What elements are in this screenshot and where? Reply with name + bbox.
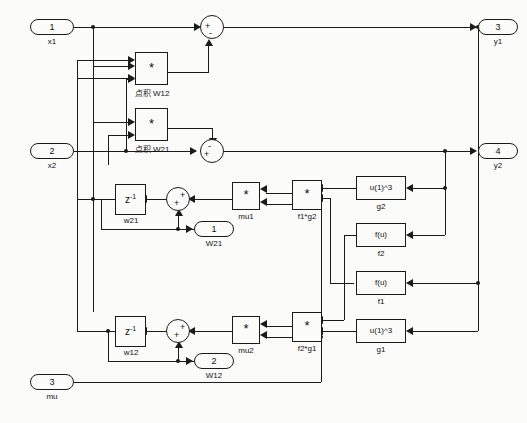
output-port-W12-label: W12 bbox=[194, 371, 234, 380]
function-g1-label: g1 bbox=[356, 345, 406, 354]
wire-sum-y2-out bbox=[224, 151, 470, 152]
arrow-w21-fb-blk bbox=[128, 56, 135, 64]
wire-g2-to-f1g2 bbox=[322, 188, 356, 189]
input-port-x1-label: x1 bbox=[30, 37, 74, 46]
function-g2-label: g2 bbox=[356, 202, 406, 211]
wire-f2-down bbox=[344, 235, 345, 320]
wire-mu2-to-sum12 bbox=[194, 331, 232, 332]
output-port-y2-label: y2 bbox=[478, 161, 518, 170]
input-port-x1-number: 1 bbox=[49, 22, 54, 32]
function-f1-expr: f(u) bbox=[375, 279, 387, 287]
wire-mu-main bbox=[74, 382, 321, 383]
arrow-y2-f2 bbox=[406, 231, 413, 239]
output-port-y2-number: 4 bbox=[495, 146, 500, 156]
dot-product-W12-label: 点积 W12 bbox=[113, 87, 191, 98]
function-f2-label: f2 bbox=[356, 249, 406, 258]
wire-y1-to-f1 bbox=[412, 283, 478, 284]
wire-w21-fb-join bbox=[77, 199, 93, 200]
output-port-W12[interactable]: 2 bbox=[194, 353, 234, 369]
input-port-x2-number: 2 bbox=[49, 146, 54, 156]
wire-y2-to-f2 bbox=[412, 235, 445, 236]
function-block-g2[interactable]: u(1)^3 bbox=[356, 176, 406, 200]
output-port-y2[interactable]: 4 bbox=[478, 143, 518, 159]
input-port-x2-label: x2 bbox=[30, 161, 74, 170]
arrow-f1g2-mu1 bbox=[260, 185, 267, 193]
wire-w12-fb-left bbox=[77, 78, 78, 331]
wire-sum21-to-delay bbox=[146, 199, 168, 200]
function-f1-label: f1 bbox=[356, 297, 406, 306]
sum-y1-sign-minus: - bbox=[209, 29, 212, 38]
arrow-mu-mu1 bbox=[260, 198, 267, 206]
wire-w21blk-out bbox=[168, 128, 213, 129]
arrow-y1-f1 bbox=[406, 279, 413, 287]
output-port-W21-label: W21 bbox=[194, 239, 234, 248]
product-block-mu2[interactable]: * bbox=[232, 316, 260, 344]
sum-block-y1[interactable] bbox=[200, 15, 224, 39]
wire-w21-fb-to-blk bbox=[77, 60, 131, 61]
wire-mu1-to-sum21 bbox=[194, 199, 232, 200]
wire-f2-out bbox=[344, 235, 356, 236]
arrow-w12-sum-y1 bbox=[205, 39, 213, 46]
wire-y2-to-g2 bbox=[412, 188, 445, 189]
wire-w21-fb-up bbox=[178, 216, 179, 229]
dot-product-W21-label: 点积 W21 bbox=[113, 143, 191, 154]
wire-w21-to-port bbox=[101, 229, 194, 230]
wire-mu-bus-up bbox=[321, 204, 322, 382]
wire-f1-into-f1g2 bbox=[322, 198, 330, 199]
wire-delay21-out bbox=[93, 199, 115, 200]
output-port-W12-number: 2 bbox=[211, 356, 216, 366]
output-port-y1-number: 3 bbox=[495, 22, 500, 32]
function-block-f1[interactable]: f(u) bbox=[356, 271, 406, 295]
arrow-w12-port bbox=[186, 357, 193, 365]
unit-delay-block-w12[interactable]: z-1 bbox=[115, 316, 146, 347]
wire-x1-down bbox=[93, 27, 94, 312]
wire-x1-to-w12a bbox=[93, 66, 131, 67]
sum-w12-sign-plus-bottom: + bbox=[174, 331, 179, 340]
sum-w21-sign-plus-bottom: + bbox=[174, 199, 179, 208]
unit-delay-block-w21[interactable]: z-1 bbox=[115, 184, 146, 215]
product-f1g2-label: f1*g2 bbox=[284, 212, 330, 221]
wire-w12-fb-to-blk bbox=[77, 78, 131, 79]
wire-f2-into-f2g1 bbox=[322, 320, 344, 321]
arrow-w21-port bbox=[186, 225, 193, 233]
output-port-y1[interactable]: 3 bbox=[478, 19, 518, 35]
block-diagram-canvas: 1 x1 2 x2 3 mu 3 y1 4 y2 1 W21 2 W12 * 点… bbox=[0, 0, 527, 423]
output-port-W21[interactable]: 1 bbox=[194, 221, 234, 237]
arrow-w12-fb-blk bbox=[128, 74, 135, 82]
product-block-f1g2[interactable]: * bbox=[292, 180, 322, 210]
sum-w21-sign-plus-right: + bbox=[180, 191, 185, 200]
junction-y1-f1 bbox=[476, 281, 480, 285]
arrow-x2-sum bbox=[190, 147, 197, 155]
function-block-g1[interactable]: u(1)^3 bbox=[356, 319, 406, 343]
unit-delay-w21-label: w21 bbox=[110, 216, 152, 225]
sum-y2-sign-plus: + bbox=[204, 150, 209, 159]
junction-y2-g2 bbox=[443, 186, 447, 190]
sum-w12-sign-plus-right: + bbox=[180, 323, 185, 332]
wire-f1-up bbox=[330, 198, 331, 283]
product-block-f2g1[interactable]: * bbox=[292, 312, 322, 342]
wire-y1-bus-down bbox=[478, 27, 479, 331]
wire-sum-y1-out bbox=[224, 27, 478, 28]
arrow-x1-w21 bbox=[128, 118, 135, 126]
input-port-x2[interactable]: 2 bbox=[30, 143, 74, 159]
input-port-mu-number: 3 bbox=[49, 377, 54, 387]
function-g2-expr: u(1)^3 bbox=[370, 184, 392, 192]
wire-y2-bus-down bbox=[445, 151, 446, 235]
unit-delay-w12-expr: z-1 bbox=[125, 325, 136, 338]
arrow-y2-g2 bbox=[406, 184, 413, 192]
arrow-y2-port bbox=[470, 147, 477, 155]
arrow-sum-y1-in bbox=[194, 23, 201, 31]
function-block-f2[interactable]: f(u) bbox=[356, 223, 406, 247]
dot-product-block-W21[interactable]: * bbox=[135, 108, 168, 141]
arrow-f2g1-mu2 bbox=[260, 320, 267, 328]
input-port-mu[interactable]: 3 bbox=[30, 374, 74, 390]
product-block-mu1[interactable]: * bbox=[232, 182, 260, 210]
arrow-y1-g1 bbox=[406, 327, 413, 335]
function-f2-expr: f(u) bbox=[375, 231, 387, 239]
dot-product-block-W12[interactable]: * bbox=[135, 52, 168, 85]
wire-w12blk-up bbox=[208, 46, 209, 72]
output-port-y1-label: y1 bbox=[478, 37, 518, 46]
wire-w12blk-out bbox=[168, 72, 209, 73]
input-port-mu-label: mu bbox=[30, 392, 74, 401]
input-port-x1[interactable]: 1 bbox=[30, 19, 74, 35]
